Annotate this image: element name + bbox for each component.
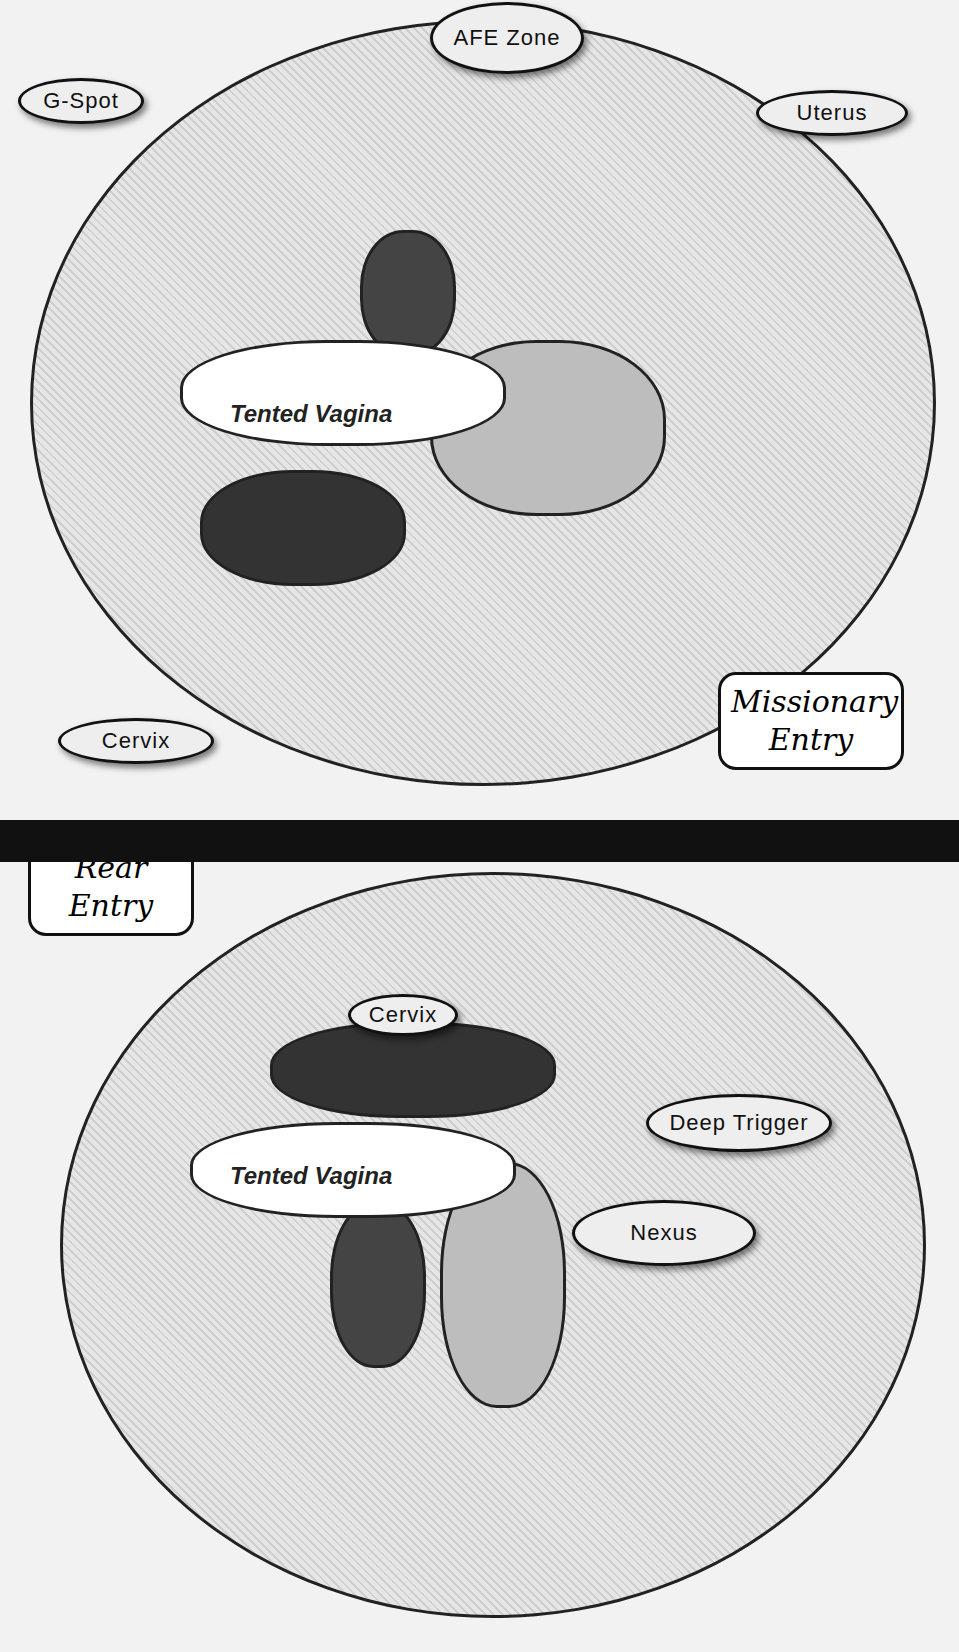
bladder-shape: [360, 230, 456, 356]
callout-uterus: Uterus: [756, 90, 908, 136]
callout-deep-trigger: Deep Trigger: [646, 1094, 832, 1152]
panel-divider: [0, 820, 959, 862]
position-caption: Rear Entry: [28, 862, 194, 936]
callout-g-spot: G-Spot: [18, 78, 144, 124]
callout-cervix: Cervix: [348, 994, 458, 1036]
callout-nexus: Nexus: [572, 1200, 756, 1266]
rectum-shape: [270, 1022, 556, 1118]
callout-cervix: Cervix: [58, 718, 214, 764]
bladder-shape: [330, 1202, 426, 1368]
callout-afe-zone: AFE Zone: [430, 2, 584, 74]
structure-label: Tented Vagina: [230, 1162, 392, 1190]
bottom-diagram-panel: Tented Vagina Cervix Deep Trigger Nexus …: [0, 862, 959, 1652]
position-caption: Missionary Entry: [718, 672, 904, 770]
structure-label: Tented Vagina: [230, 400, 392, 428]
rectum-shape: [200, 470, 406, 586]
vaginal-canal-shape: [180, 340, 506, 446]
top-diagram-panel: Tented Vagina G-Spot AFE Zone Uterus Cer…: [0, 0, 959, 820]
